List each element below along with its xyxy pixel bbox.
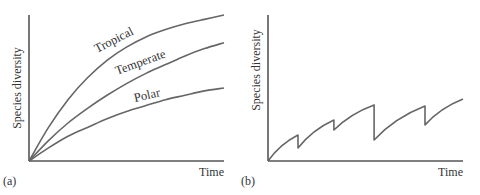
panel-a-x-label: Time [199,165,224,179]
panel-b-curves [268,99,463,161]
curve-label-temperate: Temperate [113,47,168,78]
panel-b-label: (b) [241,174,255,188]
curve-label-tropical: Tropical [92,24,136,56]
panel-a-label: (a) [3,174,16,188]
panel-b: Species diversity Time (b) [241,15,463,188]
panel-a-y-label: Species diversity [10,47,24,129]
series-line-a-polar [29,88,224,161]
panel-b-x-label: Time [438,165,463,179]
panel-b-y-label: Species diversity [249,29,263,111]
panel-a: Species diversity Time (a) Tropical Temp… [3,15,224,188]
series-line-b-diversity-sawtooth [268,99,463,161]
figure: Species diversity Time (a) Tropical Temp… [0,0,480,195]
